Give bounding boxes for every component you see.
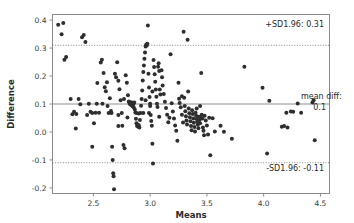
data-point bbox=[64, 55, 68, 59]
data-point bbox=[180, 113, 184, 117]
data-point bbox=[137, 112, 141, 116]
data-point bbox=[134, 117, 138, 121]
data-point bbox=[178, 101, 182, 105]
data-point bbox=[82, 33, 86, 37]
x-tick-label: 3.5 bbox=[201, 199, 213, 208]
data-point bbox=[175, 139, 179, 143]
data-point bbox=[156, 65, 160, 69]
data-point bbox=[117, 87, 121, 91]
data-point bbox=[120, 111, 124, 115]
data-point bbox=[141, 70, 145, 74]
data-point bbox=[90, 145, 94, 149]
data-point bbox=[144, 98, 148, 102]
data-point bbox=[115, 60, 119, 64]
y-axis-ticks: 0.40.30.20.10.0-0.1-0.2 bbox=[32, 16, 53, 193]
data-point bbox=[190, 128, 194, 132]
data-point bbox=[137, 125, 141, 129]
data-point bbox=[173, 124, 177, 128]
y-tick-label: 0.4 bbox=[35, 16, 47, 25]
data-point bbox=[95, 81, 99, 85]
data-point bbox=[203, 114, 207, 118]
y-tick-label: 0.2 bbox=[35, 72, 47, 81]
data-point bbox=[142, 63, 146, 67]
data-point bbox=[162, 92, 166, 96]
data-point bbox=[186, 38, 190, 42]
data-point bbox=[146, 72, 150, 76]
data-point bbox=[183, 109, 187, 113]
data-point bbox=[156, 105, 160, 109]
data-point bbox=[204, 119, 208, 123]
data-point bbox=[170, 101, 174, 105]
data-point bbox=[95, 102, 99, 106]
data-point bbox=[198, 104, 202, 108]
data-point bbox=[181, 120, 185, 124]
data-point bbox=[151, 162, 155, 166]
data-point bbox=[143, 51, 147, 55]
data-point bbox=[150, 89, 154, 93]
data-point bbox=[141, 79, 145, 83]
data-point bbox=[145, 42, 149, 46]
data-point bbox=[158, 92, 162, 96]
data-point bbox=[153, 80, 157, 84]
x-tick-label: 4.5 bbox=[314, 199, 326, 208]
data-point bbox=[106, 104, 110, 108]
data-point bbox=[284, 111, 288, 115]
data-point bbox=[213, 129, 217, 133]
data-point bbox=[102, 71, 106, 75]
data-point bbox=[87, 102, 91, 106]
data-point bbox=[193, 129, 197, 133]
data-point bbox=[61, 21, 65, 25]
data-point bbox=[85, 113, 89, 117]
data-point bbox=[206, 132, 210, 136]
data-point bbox=[125, 81, 129, 85]
data-point bbox=[139, 104, 143, 108]
data-point bbox=[242, 65, 246, 69]
data-point bbox=[185, 122, 189, 126]
data-point bbox=[125, 115, 129, 119]
data-point bbox=[103, 85, 107, 89]
data-point bbox=[129, 102, 133, 106]
data-point bbox=[123, 146, 127, 150]
data-point bbox=[161, 84, 165, 88]
data-point bbox=[192, 121, 196, 125]
data-point bbox=[116, 113, 120, 117]
data-point bbox=[147, 86, 151, 90]
data-point bbox=[171, 110, 175, 114]
x-tick-label: 4.0 bbox=[258, 199, 270, 208]
bland-altman-chart: 0.40.30.20.10.0-0.1-0.2 2.53.03.54.04.5 … bbox=[0, 0, 354, 223]
data-point bbox=[146, 23, 150, 27]
data-point bbox=[205, 124, 209, 128]
data-point bbox=[154, 95, 158, 99]
data-point bbox=[114, 75, 118, 79]
data-point bbox=[119, 98, 123, 102]
data-point bbox=[296, 101, 300, 105]
data-point bbox=[105, 80, 109, 84]
data-point bbox=[94, 111, 98, 115]
data-point bbox=[74, 112, 78, 116]
data-point bbox=[100, 102, 104, 106]
lower-limit-annotation: -SD1.96: -0.11 bbox=[266, 164, 324, 173]
data-point bbox=[111, 158, 115, 162]
data-point bbox=[149, 119, 153, 123]
data-point bbox=[188, 115, 192, 119]
data-point bbox=[116, 124, 120, 128]
data-point bbox=[180, 94, 184, 98]
data-point bbox=[163, 100, 167, 104]
data-point bbox=[179, 105, 183, 109]
data-point bbox=[187, 111, 191, 115]
data-point bbox=[159, 68, 163, 72]
data-point bbox=[60, 32, 64, 36]
data-point bbox=[188, 119, 192, 123]
data-point bbox=[77, 97, 81, 101]
data-point bbox=[182, 30, 186, 34]
data-point bbox=[291, 110, 295, 114]
data-point bbox=[132, 101, 136, 105]
data-point bbox=[152, 65, 156, 69]
data-point bbox=[187, 106, 191, 110]
data-point bbox=[97, 111, 101, 115]
data-point bbox=[208, 153, 212, 157]
data-point bbox=[192, 125, 196, 129]
data-point bbox=[174, 129, 178, 133]
data-point bbox=[211, 116, 215, 120]
data-point bbox=[112, 187, 116, 191]
